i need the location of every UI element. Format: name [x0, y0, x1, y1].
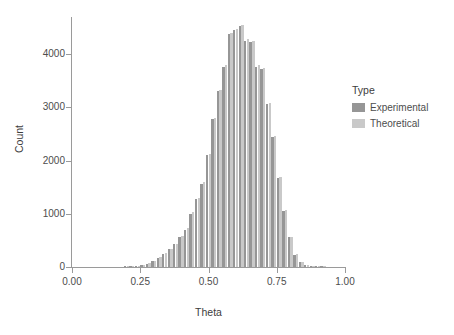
y-tick-label: 0	[59, 262, 65, 272]
y-tick-mark	[66, 54, 71, 55]
y-tick-mark	[66, 214, 71, 215]
x-tick-mark	[209, 268, 210, 273]
x-tick-label: 0.75	[267, 277, 286, 287]
legend-items: ExperimentalTheoretical	[352, 100, 452, 131]
histogram-chart: 01000200030004000 0.000.250.500.751.00 T…	[0, 0, 454, 335]
y-tick-label: 2000	[43, 156, 65, 166]
x-axis-title: Theta	[72, 306, 345, 318]
legend-item[interactable]: Experimental	[352, 100, 452, 115]
legend-swatch-icon	[352, 119, 365, 128]
x-tick-mark	[277, 268, 278, 273]
y-tick-mark	[66, 267, 71, 268]
bars-layer	[72, 17, 345, 267]
x-tick-label: 1.00	[335, 277, 354, 287]
legend: Type ExperimentalTheoretical	[352, 84, 452, 132]
legend-item-label: Experimental	[370, 102, 428, 113]
y-tick-mark	[66, 161, 71, 162]
x-tick-mark	[140, 268, 141, 273]
x-tick-label: 0.00	[62, 277, 81, 287]
y-tick-label: 1000	[43, 209, 65, 219]
y-axis-line	[71, 17, 72, 268]
legend-item[interactable]: Theoretical	[352, 116, 452, 131]
legend-swatch-icon	[352, 103, 365, 112]
x-tick-mark	[72, 268, 73, 273]
legend-item-label: Theoretical	[370, 118, 419, 129]
x-tick-label: 0.50	[199, 277, 218, 287]
legend-title: Type	[352, 84, 452, 96]
y-tick-label: 3000	[43, 102, 65, 112]
y-tick-label: 4000	[43, 49, 65, 59]
y-tick-mark	[66, 107, 71, 108]
x-tick-mark	[345, 268, 346, 273]
x-tick-label: 0.25	[131, 277, 150, 287]
y-axis-title: Count	[13, 79, 25, 199]
